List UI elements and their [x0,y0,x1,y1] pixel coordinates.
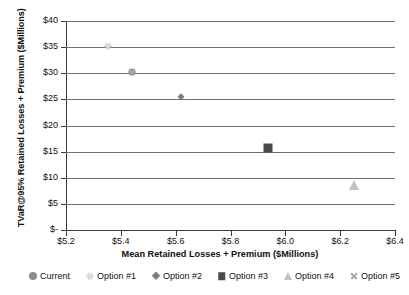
gridline [66,126,395,127]
plot-area [66,21,395,230]
x-tick-label: $5.4 [99,236,143,246]
gridline [66,73,395,74]
cross-marker-icon [349,271,359,281]
gridline [66,204,395,205]
data-point-option-5 [128,68,136,76]
legend-label: Option #1 [97,271,136,281]
legend-item-option-4[interactable]: Option #4 [283,271,334,281]
x-axis-title: Mean Retained Losses + Premium ($Million… [40,249,400,259]
x-axis-line [66,230,396,231]
y-tick-label: $30 [16,67,58,77]
x-tick-label: $5.2 [44,236,88,246]
legend-label: Option #3 [229,271,268,281]
asterisk-marker-icon [85,271,95,281]
y-tick-label: $40 [16,15,58,25]
diamond-marker-icon [151,271,161,281]
scatter-chart: TVaR@95% Retained Losses + Premium ($Mil… [0,0,409,295]
y-tick-label: $10 [16,172,58,182]
chart-legend: CurrentOption #1Option #2Option #3Option… [28,268,400,284]
x-tick-label: $6.2 [318,236,362,246]
y-tick-label: $20 [16,120,58,130]
y-tick-label: $25 [16,93,58,103]
data-point-option-3 [264,143,273,152]
legend-item-option-3[interactable]: Option #3 [217,271,268,281]
square-marker-icon [217,271,227,281]
gridline [66,47,395,48]
gridline [66,152,395,153]
data-point-option-1 [104,42,112,50]
legend-item-option-2[interactable]: Option #2 [151,271,202,281]
circle-marker-icon [28,271,38,281]
legend-item-option-5[interactable]: Option #5 [349,271,400,281]
y-tick-label: $5 [16,198,58,208]
gridline [66,21,395,22]
legend-label: Option #2 [163,271,202,281]
legend-label: Option #5 [361,271,400,281]
legend-label: Option #4 [295,271,334,281]
gridline [66,99,395,100]
y-tick-label: $15 [16,146,58,156]
y-tick-label: $- [16,224,58,234]
y-tick-label: $35 [16,41,58,51]
gridline [66,178,395,179]
x-tick-label: $6.4 [373,236,409,246]
x-tick-label: $5.8 [209,236,253,246]
triangle-marker-icon [283,271,293,281]
x-tick-label: $5.6 [154,236,198,246]
data-point-option-4 [349,180,359,190]
x-tick-label: $6.0 [263,236,307,246]
legend-item-option-1[interactable]: Option #1 [85,271,136,281]
legend-label: Current [40,271,70,281]
legend-item-current[interactable]: Current [28,271,70,281]
